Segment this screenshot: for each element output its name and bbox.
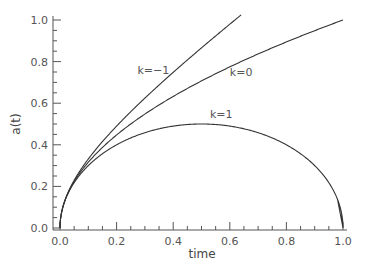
y-tick-label: 1.0 [31,14,49,27]
curve-label: k=−1 [137,64,169,77]
y-tick-label: 0.4 [31,139,49,152]
friedmann-scale-factor-chart: 0.00.20.40.60.81.0 0.00.20.40.60.81.0 k=… [0,0,365,273]
y-axis: 0.00.20.40.60.81.0 [31,14,62,235]
x-axis: 0.00.20.40.60.81.0 [51,222,352,248]
x-tick-label: 0.4 [164,235,182,248]
y-tick-label: 0.0 [31,222,49,235]
plot-curves [60,15,343,228]
curve-k1 [60,124,343,228]
x-tick-label: 0.2 [108,235,126,248]
x-tick-label: 0.0 [51,235,69,248]
y-tick-label: 0.8 [31,56,49,69]
y-tick-label: 0.2 [31,180,49,193]
curve-label: k=1 [210,108,233,121]
curve-label: k=0 [230,66,253,79]
curve-kminus1 [60,15,241,228]
x-tick-label: 1.0 [334,235,352,248]
x-tick-label: 0.6 [221,235,239,248]
x-tick-label: 0.8 [278,235,296,248]
y-tick-label: 0.6 [31,97,49,110]
x-axis-title: time [188,247,215,261]
y-axis-title: a(t) [9,113,23,134]
curve-labels: k=−1k=0k=1 [137,64,252,121]
